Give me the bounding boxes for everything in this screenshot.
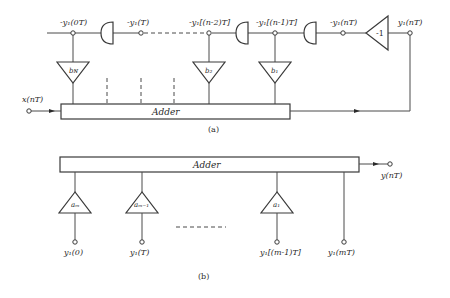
gain-b2: b₂	[205, 67, 212, 75]
adder-label-a: Adder	[151, 107, 180, 117]
diagram-a: -1 -y₁(0T) -y₁(T) -y₁[(n-2)T] -y₁[(n-1)T…	[22, 16, 422, 134]
input-label-x: x(nT)	[22, 95, 43, 104]
node-y1-nT	[408, 31, 412, 35]
label-neg-y1-nT: -y₁(nT)	[330, 18, 357, 27]
label-y1-n-1: -y₁[(n-1)T]	[256, 18, 298, 27]
node-y1-n-1	[273, 31, 277, 35]
filter-block-diagram: -1 -y₁(0T) -y₁(T) -y₁[(n-2)T] -y₁[(n-1)T…	[0, 0, 450, 298]
inverter-gain: -1	[376, 29, 384, 38]
output-label-y: y(nT)	[380, 171, 402, 180]
input-label-y1-mT: y₁(mT)	[327, 248, 355, 257]
label-y1-T: -y₁(T)	[127, 18, 149, 27]
output-node-y	[388, 162, 392, 166]
arrow-icon	[49, 109, 55, 113]
adder-label-b: Adder	[192, 160, 221, 170]
arrow-icon	[354, 109, 360, 113]
gain-am: aₘ	[71, 201, 79, 209]
input-node-y1-0	[73, 240, 77, 244]
node-y1-T	[139, 31, 143, 35]
gain-a1: a₁	[273, 201, 280, 209]
label-y1-n-2: -y₁[(n-2)T]	[189, 18, 231, 27]
caption-b: (b)	[198, 272, 209, 281]
gain-b1: b₁	[271, 67, 278, 75]
gain-am-1: aₘ₋₁	[134, 201, 149, 209]
input-node-y1-m-1	[275, 240, 279, 244]
diagram-b: Adder y(nT) aₘ aₘ₋₁ a₁ y₁(0) y₁(T) y₁[(m	[59, 157, 402, 281]
delay-element-icon	[101, 22, 113, 44]
delay-element-icon	[236, 22, 248, 44]
arrow-icon	[373, 162, 379, 166]
node-y1-0T	[71, 31, 75, 35]
input-label-y1-0: y₁(0)	[63, 248, 83, 257]
gain-bN: bɴ	[69, 67, 78, 75]
input-label-y1-T: y₁(T)	[129, 248, 149, 257]
input-label-y1-m-1: y₁[(m-1)T]	[259, 248, 302, 257]
label-y1-nT: y₁(nT)	[397, 18, 422, 27]
feedback-wire	[290, 35, 410, 111]
input-node-y1-T	[140, 240, 144, 244]
delay-element-icon	[304, 22, 316, 44]
node-neg-y1-nT	[341, 31, 345, 35]
input-node-y1-mT	[342, 240, 346, 244]
node-y1-n-2	[207, 31, 211, 35]
label-y1-0T: -y₁(0T)	[60, 18, 87, 27]
caption-a: (a)	[208, 125, 219, 134]
input-node-x	[27, 109, 31, 113]
